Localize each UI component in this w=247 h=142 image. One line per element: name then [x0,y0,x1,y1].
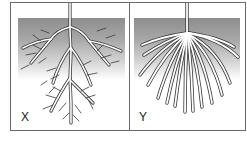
root-systems-figure: X [0,0,247,142]
panel-y-fibrous: Y [129,2,246,131]
fibrous-root-illustration [130,3,246,131]
panel-label-x: X [21,110,29,124]
panel-x-taproot: X [10,2,130,131]
panel-label-y: Y [139,110,147,124]
